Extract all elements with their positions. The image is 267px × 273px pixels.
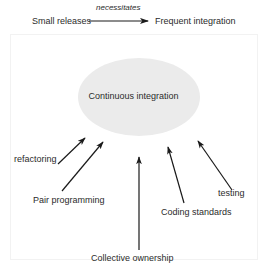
coding-standards-label: Coding standards — [161, 208, 232, 217]
coding-standards-arrow — [168, 147, 184, 203]
continuous-integration-label: Continuous integration — [0, 91, 267, 101]
collective-ownership-label: Collective ownership — [91, 254, 174, 263]
small-releases-label: Small releases — [32, 17, 91, 26]
refactoring-arrow — [58, 138, 85, 164]
testing-label: testing — [218, 189, 245, 198]
testing-arrow — [198, 141, 232, 190]
diagram-canvas — [0, 0, 267, 273]
pair-programming-arrow — [62, 142, 103, 191]
frequent-integration-label: Frequent integration — [155, 17, 236, 26]
necessitates-label: necessitates — [96, 4, 140, 12]
refactoring-label: refactoring — [14, 155, 57, 164]
pair-programming-label: Pair programming — [33, 196, 105, 205]
continuous-integration-diagram: Small releases necessitates Frequent int… — [0, 0, 267, 273]
